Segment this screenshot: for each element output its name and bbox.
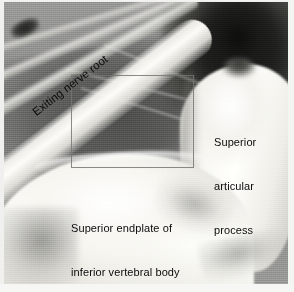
label-superior-endplate: Superior endplate of inferior vertebral … [71, 192, 180, 284]
figure-border-bottom [0, 284, 294, 292]
label-line: inferior vertebral body [71, 265, 180, 280]
label-line: Superior endplate of [71, 221, 180, 236]
figure-border-left [0, 0, 4, 292]
region-of-interest-box [71, 75, 194, 168]
label-line: process [214, 223, 256, 238]
label-superior-articular-process: Superior articular process [214, 106, 256, 267]
figure-border-right [288, 0, 294, 292]
anatomical-figure: Exiting nerve root Superior articular pr… [0, 0, 294, 292]
figure-border-top [0, 0, 294, 2]
label-line: articular [214, 179, 256, 194]
label-line: Superior [214, 135, 256, 150]
photograph-canvas: Exiting nerve root Superior articular pr… [4, 2, 288, 284]
